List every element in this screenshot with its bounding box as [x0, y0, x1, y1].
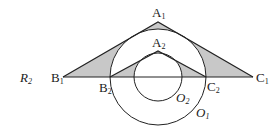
label-o2: O2: [176, 90, 189, 106]
label-c2: C2: [207, 79, 220, 95]
label-c1: C1: [256, 70, 269, 86]
label-o1: O1: [196, 105, 209, 121]
label-a1: A1: [152, 5, 165, 21]
diagram-canvas: R2 A1 A2 B1 B2 C1 C2 O2 O1: [0, 0, 279, 137]
label-b1: B1: [51, 70, 64, 86]
label-a2: A2: [152, 35, 165, 51]
shaded-region-inner: [110, 51, 206, 77]
label-r2: R2: [19, 70, 32, 86]
label-b2: B2: [99, 80, 112, 96]
